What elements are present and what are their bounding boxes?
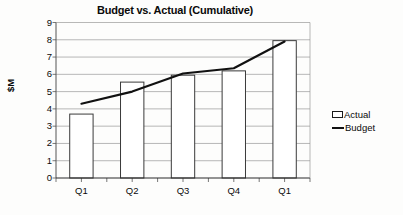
legend-item-budget: Budget bbox=[332, 121, 375, 134]
chart-container: Budget vs. Actual (Cumulative) $M 012345… bbox=[0, 0, 403, 215]
legend-label-actual: Actual bbox=[344, 109, 370, 120]
chart-legend: Actual Budget bbox=[332, 108, 375, 134]
legend-label-budget: Budget bbox=[345, 122, 375, 133]
legend-item-actual: Actual bbox=[332, 108, 375, 121]
legend-line-swatch-icon bbox=[332, 127, 344, 129]
bar-series-actual bbox=[70, 41, 297, 178]
legend-bar-swatch-icon bbox=[332, 111, 343, 118]
